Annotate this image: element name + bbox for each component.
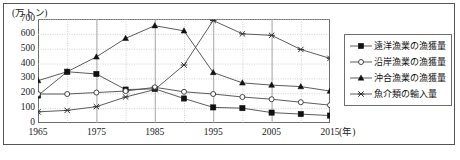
legend-item[interactable]: 遠洋漁業の漁獲量 — [347, 38, 449, 54]
line-chart-svg — [38, 19, 330, 123]
x-tick-label: 1975 — [87, 128, 106, 138]
filled-triangle-marker — [349, 72, 373, 84]
filled-square-marker — [349, 40, 373, 52]
y-tick-label: 300 — [21, 74, 35, 84]
x-axis-unit-label: (年) — [339, 128, 355, 138]
legend-item[interactable]: 魚介類の輸入量 — [347, 86, 449, 102]
legend-item[interactable]: 沖合漁業の漁獲量 — [347, 70, 449, 86]
x-tick-label: 2005 — [262, 128, 281, 138]
legend-item-label: 沿岸漁業の漁獲量 — [374, 58, 446, 67]
legend-item-label: 沖合漁業の漁獲量 — [374, 74, 446, 83]
x-tick-label: 2015 — [321, 128, 340, 138]
y-tick-label: 100 — [21, 103, 35, 113]
y-tick-label: 400 — [21, 59, 35, 69]
x-tick-label: 1985 — [145, 128, 164, 138]
y-tick-label: 500 — [21, 44, 35, 54]
legend-item-label: 遠洋漁業の漁獲量 — [374, 42, 446, 51]
figure-bottom-note — [250, 150, 456, 157]
plot-area: 0100200300400500600700 19651975198519952… — [38, 19, 330, 123]
x-tick-label: 1995 — [204, 128, 223, 138]
y-tick-label: 700 — [21, 14, 35, 24]
y-tick-label: 200 — [21, 89, 35, 99]
chart-legend: 遠洋漁業の漁獲量沿岸漁業の漁獲量沖合漁業の漁獲量魚介類の輸入量 — [344, 34, 452, 106]
y-tick-label: 600 — [21, 29, 35, 39]
x-tick-label: 1965 — [29, 128, 48, 138]
open-circle-marker — [349, 56, 373, 68]
chart-figure: (万トン) 0100200300400500600700 19651975198… — [0, 0, 460, 160]
legend-item-label: 魚介類の輸入量 — [374, 90, 437, 99]
x-cross-marker — [349, 88, 373, 100]
legend-item[interactable]: 沿岸漁業の漁獲量 — [347, 54, 449, 70]
